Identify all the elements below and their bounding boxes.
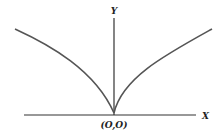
curve-left-branch	[15, 29, 114, 113]
origin-label: (O,O)	[101, 120, 128, 131]
x-axis-label: X	[201, 111, 210, 121]
curve-right-branch	[114, 29, 212, 113]
diagram-canvas: Y X (O,O)	[0, 0, 223, 134]
y-axis-label: Y	[111, 6, 119, 16]
cusp-diagram: Y X (O,O)	[0, 0, 223, 134]
